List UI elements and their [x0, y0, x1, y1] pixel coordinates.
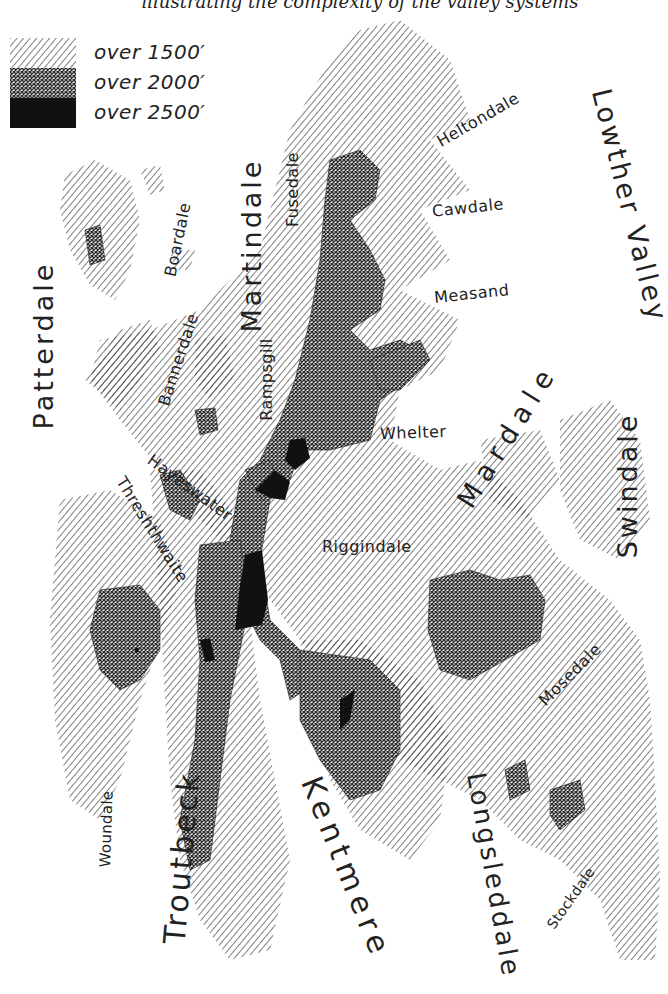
crosshatch-swatch-icon [10, 68, 76, 98]
label-swindale: Swindale [612, 413, 643, 559]
legend-label: over 1500′ [94, 40, 205, 64]
legend-item-1500: over 1500′ [10, 38, 250, 68]
label-woundale: Woundale [96, 790, 117, 867]
label-riggindale: Riggindale [322, 537, 412, 556]
legend-label: over 2500′ [94, 100, 205, 124]
legend-item-2000: over 2000′ [10, 68, 250, 98]
legend-item-2500: over 2500′ [10, 98, 250, 128]
legend-label: over 2000′ [94, 70, 205, 94]
solid-swatch-icon [10, 98, 76, 128]
hatch-swatch-icon [10, 38, 76, 68]
label-fusedale: Fusedale [283, 152, 302, 227]
label-martindale: Martindale [236, 159, 267, 333]
label-patterdale: Patterdale [28, 262, 59, 430]
label-whelter: Whelter [380, 422, 447, 443]
label-rampsgill: Rampsgill [257, 338, 276, 421]
